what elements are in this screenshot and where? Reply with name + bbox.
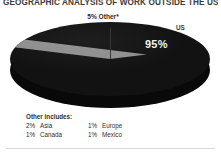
pie-chart: 5% Other* US 95% <box>0 10 221 110</box>
footnote-item-canada-pct: 1% <box>26 131 40 139</box>
page-title: GEOGRAPHIC ANALYSIS OF WORK OUTSIDE THE … <box>3 0 218 7</box>
footnote-row: 2%Asia 1%Europe <box>26 122 196 130</box>
footnote-item-mexico: 1%Mexico <box>88 131 150 139</box>
pie-slice-divider <box>110 28 111 59</box>
footnote-item-europe: 1%Europe <box>88 122 150 130</box>
footnote-item-asia: 2%Asia <box>26 122 88 130</box>
footnote-heading: Other includes: <box>26 113 196 121</box>
pie-slice-other <box>10 22 147 59</box>
us-series-label: US <box>176 24 185 31</box>
footnote-item-mexico-name: Mexico <box>102 131 122 138</box>
footnote-item-asia-name: Asia <box>40 122 52 129</box>
pie-top-face <box>10 22 210 96</box>
footnote-row: 1%Canada 1%Mexico <box>26 131 196 139</box>
footnote-item-canada-name: Canada <box>40 131 62 138</box>
bottom-divider <box>6 148 215 149</box>
footnote-block: Other includes: 2%Asia 1%Europe 1%Canada… <box>26 113 196 139</box>
footnote-item-europe-name: Europe <box>102 122 122 129</box>
footnote-item-mexico-pct: 1% <box>88 131 102 139</box>
footnote-item-europe-pct: 1% <box>88 122 102 130</box>
other-slice-callout-label: 5% Other* <box>58 13 148 20</box>
footnote-item-asia-pct: 2% <box>26 122 40 130</box>
footnote-item-canada: 1%Canada <box>26 131 88 139</box>
us-value-label: 95% <box>145 38 168 50</box>
